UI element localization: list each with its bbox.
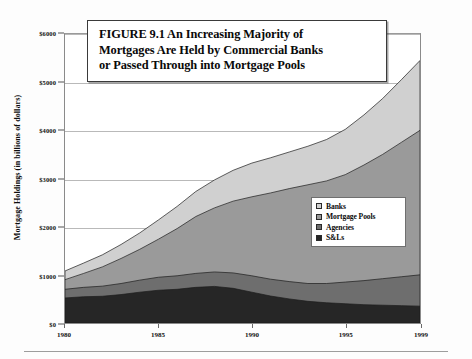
figure-title-box: FIGURE 9.1 An Increasing Majority of Mor…	[87, 20, 387, 82]
chart-legend: BanksMortgage PoolsAgenciesS&Ls	[311, 197, 406, 247]
legend-item-agencies[interactable]: Agencies	[316, 222, 401, 233]
y-axis-title: Mortgage Holdings (in billions of dollar…	[13, 73, 22, 263]
x-tick-mark-1999	[421, 324, 422, 328]
x-tick-mark-1990	[252, 324, 253, 328]
y-tick-label-2000: $2000	[39, 224, 56, 231]
y-tick-label-4000: $4000	[39, 127, 56, 134]
legend-swatch-icon	[316, 203, 322, 209]
legend-item-label: S&Ls	[326, 233, 344, 242]
x-tick-label-1995: 1995	[339, 331, 353, 339]
y-axis: Mortgage Holdings (in billions of dollar…	[0, 0, 64, 359]
page-divider-rule	[24, 351, 448, 352]
legend-item-s-ls[interactable]: S&Ls	[316, 233, 401, 244]
y-tick-label-3000: $3000	[39, 175, 56, 182]
x-tick-label-1999: 1999	[414, 331, 428, 339]
legend-item-mortgage-pools[interactable]: Mortgage Pools	[316, 212, 401, 223]
x-tick-mark-1995	[346, 324, 347, 328]
legend-item-banks[interactable]: Banks	[316, 201, 401, 212]
x-tick-label-1985: 1985	[151, 331, 165, 339]
legend-item-label: Agencies	[326, 223, 354, 232]
legend-swatch-icon	[316, 214, 322, 220]
figure-title-line-2: Mortgages Are Held by Commercial Banks	[99, 43, 377, 59]
x-axis: 19801985199019951999	[0, 324, 472, 348]
y-tick-label-6000: $6000	[39, 30, 56, 37]
figure-title-line-1: FIGURE 9.1 An Increasing Majority of	[99, 27, 377, 43]
legend-item-label: Mortgage Pools	[326, 212, 375, 221]
x-tick-mark-1980	[64, 324, 65, 328]
figure-title-line-3: or Passed Through into Mortgage Pools	[99, 58, 377, 74]
figure-container: Mortgage Holdings (in billions of dollar…	[0, 0, 472, 359]
x-tick-label-1990: 1990	[245, 331, 259, 339]
legend-swatch-icon	[316, 224, 322, 230]
legend-item-label: Banks	[326, 202, 346, 211]
y-tick-label-5000: $5000	[39, 78, 56, 85]
x-tick-mark-1985	[158, 324, 159, 328]
y-tick-label-1000: $1000	[39, 272, 56, 279]
x-tick-label-1980: 1980	[57, 331, 71, 339]
legend-swatch-icon	[316, 235, 322, 241]
